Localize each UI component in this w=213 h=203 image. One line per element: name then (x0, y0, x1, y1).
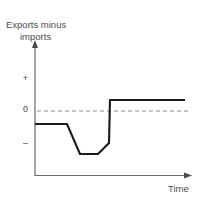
x-axis-arrow-icon (184, 173, 192, 179)
data-series-line (35, 100, 185, 154)
y-axis-tick-negative: – (12, 138, 28, 148)
y-axis-arrow-icon (32, 40, 38, 48)
y-axis-tick-zero: 0 (12, 104, 28, 114)
plot-area (0, 0, 213, 203)
chart-screenshot: Exports minus imports + 0 – Time (0, 0, 213, 203)
x-axis-label: Time (168, 183, 189, 194)
y-axis-tick-positive: + (12, 73, 28, 83)
